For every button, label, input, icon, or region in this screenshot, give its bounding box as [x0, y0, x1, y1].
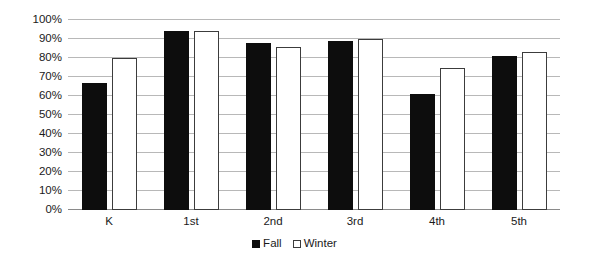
y-tick-label: 30%: [0, 147, 62, 159]
legend-entry-winter[interactable]: Winter: [293, 238, 337, 250]
x-tick-label: 3rd: [347, 216, 364, 228]
filled-black-square-icon: [252, 240, 260, 248]
bar-winter-2nd: [276, 47, 301, 210]
bar-fall-4th: [410, 94, 435, 210]
x-tick-label: 2nd: [263, 216, 282, 228]
outlined-white-square-icon: [293, 240, 301, 248]
y-tick-label: 60%: [0, 90, 62, 102]
y-tick-label: 80%: [0, 52, 62, 64]
y-tick-label: 0%: [0, 204, 62, 216]
y-tick-label: 70%: [0, 71, 62, 83]
bar-fall-3rd: [328, 41, 353, 210]
legend-label: Winter: [304, 238, 337, 250]
bar-winter-k: [112, 58, 137, 210]
bar-group: [478, 20, 560, 210]
bar-fall-2nd: [246, 43, 271, 210]
x-tick-label: 5th: [511, 216, 527, 228]
bar-chart: 0%10%20%30%40%50%60%70%80%90%100% K1st2n…: [0, 0, 589, 266]
legend-label: Fall: [263, 238, 282, 250]
x-axis: K1st2nd3rd4th5th: [68, 214, 560, 236]
x-tick-label: 1st: [183, 216, 198, 228]
chart-legend: FallWinter: [0, 238, 589, 250]
x-tick-label: 4th: [429, 216, 445, 228]
bar-winter-4th: [440, 68, 465, 211]
y-tick-label: 50%: [0, 109, 62, 121]
bar-group: [314, 20, 396, 210]
bar-winter-3rd: [358, 39, 383, 210]
y-axis: 0%10%20%30%40%50%60%70%80%90%100%: [0, 0, 62, 232]
bar-fall-5th: [492, 56, 517, 210]
bars-layer: [68, 20, 560, 210]
x-tick-label: K: [105, 216, 113, 228]
y-tick-label: 40%: [0, 128, 62, 140]
bar-winter-1st: [194, 31, 219, 210]
bar-winter-5th: [522, 52, 547, 210]
y-tick-label: 100%: [0, 14, 62, 26]
bar-fall-1st: [164, 31, 189, 210]
bar-group: [150, 20, 232, 210]
bar-group: [68, 20, 150, 210]
y-tick-label: 20%: [0, 166, 62, 178]
y-tick-label: 10%: [0, 185, 62, 197]
y-tick-label: 90%: [0, 33, 62, 45]
bar-fall-k: [82, 83, 107, 210]
bar-group: [396, 20, 478, 210]
bar-group: [232, 20, 314, 210]
legend-entry-fall[interactable]: Fall: [252, 238, 282, 250]
